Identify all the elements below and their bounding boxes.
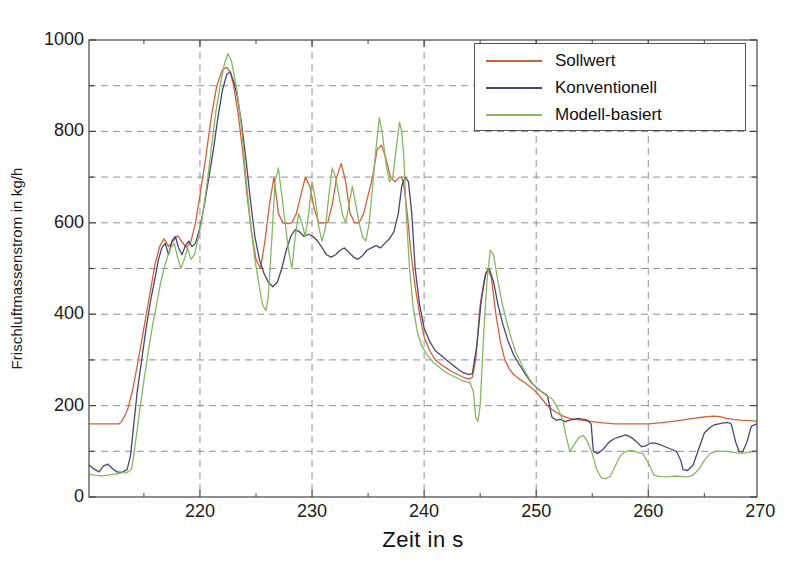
- legend-label-sollwert: Sollwert: [555, 51, 615, 71]
- legend-item-konventionell: Konventionell: [475, 75, 745, 101]
- legend-label-konventionell: Konventionell: [555, 78, 657, 98]
- legend-swatch-sollwert: [486, 60, 542, 63]
- legend-label-modell-basiert: Modell-basiert: [555, 105, 662, 125]
- legend-item-modell-basiert: Modell-basiert: [475, 102, 745, 128]
- legend-item-sollwert: Sollwert: [475, 48, 745, 74]
- chart-figure: Frischluftmassenstrom in kg/h 0200400600…: [0, 0, 793, 579]
- chart-legend: Sollwert Konventionell Modell-basiert: [474, 43, 746, 131]
- legend-swatch-konventionell: [486, 87, 542, 90]
- legend-swatch-modell-basiert: [486, 114, 542, 117]
